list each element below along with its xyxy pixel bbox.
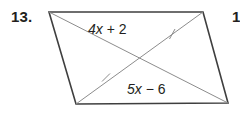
label-top-diagonal-expression: 4x + 2 [88,21,127,37]
parallelogram-diagram [0,0,240,126]
label-bottom-operator-symbol: − [146,81,154,97]
label-bottom-constant: 6 [158,81,166,97]
label-top-operator-symbol: + [107,21,115,37]
label-top-constant: 2 [119,21,127,37]
label-bottom-variable: x [135,81,142,97]
figure-container: 13. 1 4x + 2 5x − 6 [0,0,240,126]
label-top-coefficient: 4 [88,21,96,37]
label-top-variable: x [96,21,103,37]
label-bottom-diagonal-expression: 5x − 6 [127,81,166,97]
label-bottom-coefficient: 5 [127,81,135,97]
